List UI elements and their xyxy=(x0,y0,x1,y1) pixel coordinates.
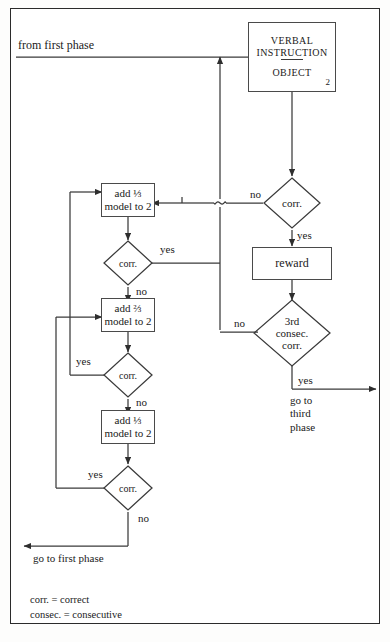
node-add-third-2: add ⅔ model to 2 xyxy=(101,298,155,332)
add-third-3-line2: model to 2 xyxy=(104,427,151,440)
edge-label-third-yes: yes xyxy=(298,374,313,386)
edge-label-c-yes: yes xyxy=(88,468,103,480)
reward-label: reward xyxy=(275,256,308,270)
exit-first-phase: go to first phase xyxy=(33,552,104,564)
diagram-canvas: from first phase VERBAL INSTRUCTION OBJE… xyxy=(0,0,390,642)
legend-item-consec: consec. = consecutive xyxy=(30,607,122,622)
exit-third-phase-line3: phase xyxy=(290,421,315,434)
legend: corr. = correct consec. = consecutive xyxy=(30,592,122,622)
node-reward: reward xyxy=(252,247,332,280)
decision-third-line2: consec. xyxy=(276,327,309,339)
decision-corr-a-label: corr. xyxy=(104,241,152,285)
entry-label: from first phase xyxy=(18,38,94,53)
edge-label-c-no: no xyxy=(138,512,149,524)
add-third-1-line2: model to 2 xyxy=(104,200,151,213)
exit-third-phase: go to third phase xyxy=(290,394,315,434)
add-third-3-line1: add ⅓ xyxy=(115,414,142,427)
decision-third-text: 3rd consec. corr. xyxy=(254,300,330,366)
decision-third-line3: corr. xyxy=(282,339,302,351)
node-add-third-3: add ⅓ model to 2 xyxy=(101,410,155,444)
decision-third-consec-corr: 3rd consec. corr. xyxy=(254,300,330,366)
edge-label-right-corr-yes: yes xyxy=(297,229,312,241)
legend-item-corr: corr. = correct xyxy=(30,592,122,607)
decision-corr-b: corr. xyxy=(104,353,152,397)
node-add-third-1: add ⅓ model to 2 xyxy=(101,183,155,217)
verbal-instruction-divider xyxy=(281,59,303,60)
edge-label-b-no: no xyxy=(136,396,147,408)
add-third-2-line1: add ⅔ xyxy=(115,302,142,315)
verbal-instruction-line1: VERBAL xyxy=(271,35,313,47)
node-verbal-instruction-object: VERBAL INSTRUCTION OBJECT 2 xyxy=(248,22,336,92)
line-jump-hop xyxy=(214,202,226,204)
decision-corr-right-label: corr. xyxy=(264,178,320,228)
edge-label-right-corr-no: no xyxy=(250,188,261,200)
add-third-1-line1: add ⅓ xyxy=(115,187,142,200)
decision-corr-right: corr. xyxy=(264,178,320,228)
exit-third-phase-line1: go to xyxy=(290,394,315,407)
decision-corr-c-label: corr. xyxy=(104,466,152,510)
add-third-2-line2: model to 2 xyxy=(104,315,151,328)
flowchart-connectors xyxy=(0,0,390,642)
decision-corr-a: corr. xyxy=(104,241,152,285)
edge-label-a-no: no xyxy=(136,285,147,297)
verbal-instruction-line2: INSTRUCTION xyxy=(256,47,327,59)
decision-corr-b-label: corr. xyxy=(104,353,152,397)
edge-label-a-yes: yes xyxy=(160,243,175,255)
exit-third-phase-line2: third xyxy=(290,407,315,420)
edge-label-b-yes: yes xyxy=(76,355,91,367)
verbal-instruction-line3: OBJECT xyxy=(272,67,311,79)
verbal-instruction-corner-number: 2 xyxy=(326,77,331,88)
decision-corr-c: corr. xyxy=(104,466,152,510)
edge-label-third-no: no xyxy=(234,317,245,329)
decision-third-line1: 3rd xyxy=(285,315,300,327)
